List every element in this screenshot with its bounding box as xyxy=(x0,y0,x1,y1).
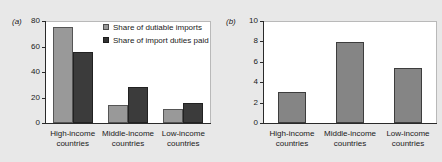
figure-container: (a) 020406080 High-incomecountriesMiddle… xyxy=(0,0,442,162)
panel-a-legend: Share of dutiable imports Share of impor… xyxy=(103,21,207,47)
bar xyxy=(278,92,306,123)
legend-item-label: Share of dutiable imports xyxy=(113,23,202,32)
chart-panel-a: (a) 020406080 High-incomecountriesMiddle… xyxy=(0,0,221,162)
bar xyxy=(108,105,128,123)
bar xyxy=(128,87,148,123)
legend-item: Share of dutiable imports xyxy=(103,21,207,33)
x-category-label-line1: Low-income xyxy=(150,129,217,139)
x-category-label-line2: countries xyxy=(373,139,442,149)
x-category-label: Low-incomecountries xyxy=(373,129,442,149)
x-category-label-line1: Low-income xyxy=(373,129,442,139)
bar xyxy=(163,109,183,123)
bar xyxy=(183,103,203,123)
bar xyxy=(336,42,364,123)
light-gray-swatch-icon xyxy=(103,24,109,30)
bar xyxy=(73,52,93,123)
legend-item: Share of import duties paid xyxy=(103,34,207,46)
bar xyxy=(53,27,73,123)
dark-gray-swatch-icon xyxy=(103,37,109,43)
bar xyxy=(394,68,422,123)
chart-panel-b: (b) 0246810 High-incomecountriesMiddle-i… xyxy=(221,0,442,162)
x-category-label-line2: countries xyxy=(150,139,217,149)
x-category-label: Low-incomecountries xyxy=(150,129,217,149)
legend-item-label: Share of import duties paid xyxy=(113,36,209,45)
